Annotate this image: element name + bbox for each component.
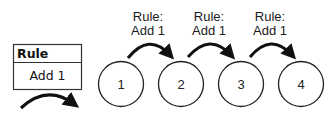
svg-text:Rule:: Rule: [133,9,163,24]
sequence-term-1: 1 [99,62,144,107]
svg-text:Add 1: Add 1 [253,23,287,38]
curved-arrow-icon-3 [250,44,292,57]
rule-box-body: Add 1 [29,68,65,83]
sequence-term-3: 3 [219,62,264,107]
curved-arrow-icon-1 [128,44,170,58]
rule-box: Rule Add 1 [14,45,82,90]
svg-text:1: 1 [117,77,124,92]
transition-label-3: Rule: Add 1 [253,9,287,38]
transition-label-2: Rule: Add 1 [192,9,226,38]
curved-arrow-icon-2 [188,44,231,57]
svg-text:3: 3 [237,77,244,92]
svg-text:Add 1: Add 1 [192,23,226,38]
sequence-term-4: 4 [279,62,324,107]
svg-text:Rule:: Rule: [194,9,224,24]
rule-box-arrow-icon [21,95,74,108]
rule-box-header: Rule [17,46,48,61]
svg-text:Add 1: Add 1 [131,23,165,38]
transition-label-1: Rule: Add 1 [131,9,165,38]
svg-text:2: 2 [177,77,184,92]
svg-text:Rule:: Rule: [255,9,285,24]
svg-text:4: 4 [297,77,304,92]
sequence-diagram: Rule Add 1 Rule: Add 1 Rule: Add 1 Rule:… [0,0,333,114]
sequence-term-2: 2 [159,62,204,107]
